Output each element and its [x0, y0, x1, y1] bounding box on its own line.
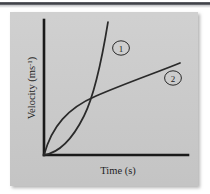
page-top-rule-shadow [0, 5, 210, 8]
y-axis-label-base: Velocity (ms [26, 66, 38, 119]
curve-1-path [44, 22, 108, 155]
curve-2-marker-label: 2 [171, 74, 176, 84]
velocity-time-chart: 1 2 Time (s) Velocity (ms-1) [10, 12, 198, 186]
curve-1-marker: 1 [113, 41, 130, 55]
y-axis-label-text: Velocity (ms-1) [26, 56, 39, 119]
curve-1-marker-label: 1 [119, 44, 124, 54]
y-axis-label: Velocity (ms-1) [26, 56, 39, 119]
y-axis-label-close: ) [26, 56, 38, 60]
x-axis-label: Time (s) [100, 165, 136, 177]
figure-root: 1 2 Time (s) Velocity (ms-1) [0, 0, 210, 194]
curve-2-marker: 2 [165, 71, 182, 85]
curve-2-path [44, 63, 180, 155]
